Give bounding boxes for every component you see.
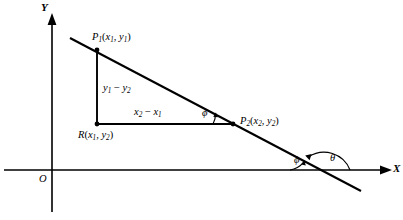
horizontal-leg-label: x2 − x1 [134,107,162,119]
angle-label-phi-at-axis: ϕ [294,155,299,166]
vertical-leg-label: y1 − y2 [103,83,131,95]
angle-label-theta-at-axis: θ [330,153,335,164]
point-dot-p1 [95,48,100,53]
y-axis-label: Y [41,2,48,13]
geometry-figure: Y X O P1(x1, y1) P2(x2, y2) R(x1, y2) y1… [0,0,403,220]
vleg-bsub: 2 [127,87,131,95]
point-label-p1: P1(x1, y1) [92,32,131,44]
y-axis [48,13,57,212]
p2-close: ) [275,115,279,126]
angle-label-phi-at-p2: ϕ [202,108,207,119]
vleg-op: − [111,82,122,93]
r-close: ) [110,129,114,140]
origin-label: O [39,174,47,185]
hleg-bsub: 1 [158,111,162,119]
point-dot-p2 [231,122,236,127]
point-label-p2: P2(x2, y2) [240,116,279,128]
theta-arc-at-axis [305,152,350,170]
point-dot-r [95,122,100,127]
x-axis-label: X [393,163,400,174]
point-label-r: R(x1, y2) [78,130,113,142]
x-axis [4,166,392,175]
p1-close: ) [127,31,131,42]
hleg-op: − [142,106,153,117]
